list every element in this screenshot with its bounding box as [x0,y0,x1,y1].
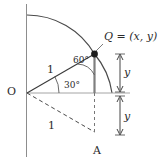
q-leader-line [96,44,103,51]
point-label-q: Q = (x, y) [104,31,157,42]
diagram-canvas [0,0,163,161]
dimension-label-y-lower: y [124,111,130,122]
radius-segment-oa [27,93,95,132]
angle-label-30: 30° [64,81,80,90]
angle-arc-30 [55,77,59,94]
point-label-a: A [93,145,101,156]
segment-label-radius-lower: 1 [48,120,55,131]
dimension-label-y-upper: y [124,67,130,78]
circle-arc [27,15,95,54]
point-marker-q [91,51,98,58]
angle-label-60: 60° [73,56,89,65]
point-label-origin: O [7,86,16,97]
angle-arc-60 [78,64,95,75]
arc-lower-segment [95,54,113,93]
segment-label-radius-upper: 1 [47,64,54,75]
geometry-diagram: O Q = (x, y) A 1 1 30° 60° y y [0,0,163,161]
